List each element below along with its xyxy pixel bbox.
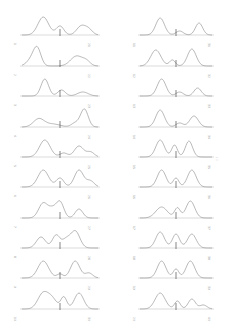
left-label: 10	[13, 317, 17, 321]
right-label: 22	[87, 74, 91, 78]
trace-panel: 1737	[132, 201, 214, 230]
trace-panel: 222	[13, 46, 100, 78]
right-label: 28	[87, 256, 91, 260]
left-label: 7	[13, 226, 17, 228]
right-label: 25	[87, 165, 91, 169]
right-label: 37	[207, 226, 211, 230]
left-label: 15	[132, 165, 136, 169]
trace-panel: 1535	[132, 140, 214, 169]
trace-panel: 1333	[132, 79, 214, 108]
right-label: 33	[207, 104, 211, 108]
right-label: 26	[87, 195, 91, 199]
trace-panel: 1131	[132, 18, 214, 47]
right-label: 36	[207, 195, 211, 199]
left-label: 14	[132, 135, 136, 139]
right-label: 39	[207, 286, 211, 290]
left-label: 9	[13, 286, 17, 288]
trace-panel: 2040	[132, 293, 214, 321]
left-label: 4	[13, 135, 17, 137]
right-label: 40	[207, 317, 211, 321]
trace-panel: 525	[13, 140, 100, 169]
left-label: 2	[13, 74, 17, 76]
figure-page: 1212223234245256267278289291030113112321…	[0, 0, 229, 333]
right-label: 23	[87, 104, 91, 108]
trace-panel: 1838	[132, 232, 214, 260]
trace-panel: 121	[13, 17, 100, 47]
left-label: 18	[132, 256, 136, 260]
left-label: 16	[132, 195, 136, 199]
right-label: 31	[207, 43, 211, 47]
left-label: 20	[132, 317, 136, 321]
trace-panel: 1030	[13, 291, 100, 321]
left-label: 17	[132, 226, 136, 230]
right-label: 24	[87, 135, 91, 139]
right-label: 29	[87, 286, 91, 290]
trace-grid-figure: 1212223234245256267278289291030113112321…	[0, 0, 229, 333]
left-label: 8	[13, 256, 17, 258]
left-label: 6	[13, 195, 17, 197]
left-label: 12	[132, 74, 136, 78]
right-label: 30	[87, 317, 91, 321]
right-label: 27	[87, 226, 91, 230]
right-label: 21	[87, 43, 91, 47]
left-label: 13	[132, 104, 136, 108]
trace-panel: 626	[13, 170, 100, 199]
page-marker: : :	[215, 157, 220, 161]
left-label: 5	[13, 165, 17, 167]
trace-panel: 828	[13, 231, 100, 260]
trace-panel: 1939	[132, 261, 214, 290]
trace-panel: 929	[13, 261, 100, 290]
right-label: 34	[207, 135, 211, 139]
left-label: 11	[132, 43, 136, 47]
right-label: 38	[207, 256, 211, 260]
trace-panel: 1232	[132, 49, 214, 78]
left-label: 1	[13, 43, 17, 45]
trace-panel: 1434	[132, 110, 214, 139]
left-label: 19	[132, 286, 136, 290]
right-label: 32	[207, 74, 211, 78]
trace-panel: 424	[13, 109, 100, 139]
trace-panel: 323	[13, 79, 100, 108]
trace-panel: 1636	[132, 170, 214, 199]
left-label: 3	[13, 104, 17, 106]
trace-panel: 727	[13, 201, 100, 230]
right-label: 35	[207, 165, 211, 169]
